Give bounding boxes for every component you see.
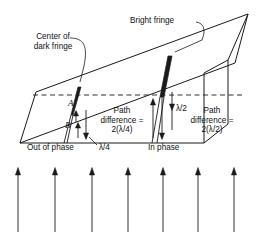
path-diff-left-line1: Path <box>91 106 153 116</box>
lambda-half-head <box>169 104 174 111</box>
label-center-of-dark-fringe-line2: dark fringe <box>22 42 84 52</box>
path-diff-right-line3: 2(λ/2) <box>178 125 246 135</box>
path-diff-left-line2: difference = <box>91 116 153 126</box>
wedge-left-end-edge <box>20 92 36 143</box>
incident-ray-group <box>18 170 234 232</box>
incident-ray-head-3 <box>89 168 94 176</box>
fringe-band-2 <box>160 56 172 97</box>
label-lambda-quarter: λ/4 <box>99 143 110 153</box>
incident-ray-head-5 <box>160 168 165 176</box>
lambda-quarter-leader <box>89 137 97 145</box>
bright-fringe-leader <box>175 22 204 52</box>
arrow-d-head <box>159 133 164 140</box>
incident-ray-head-4 <box>125 168 130 176</box>
label-in-phase: In phase <box>148 143 179 153</box>
label-path-difference-right: Path difference = 2(λ/2) <box>178 106 246 135</box>
path-diff-right-line2: difference = <box>178 116 246 126</box>
incident-ray-heads <box>15 168 236 176</box>
arrow-b-head <box>75 123 80 129</box>
label-point-b: B <box>65 121 71 131</box>
label-lambda-half: λ/2 <box>176 104 187 114</box>
label-center-of-dark-fringe-line1: Center of <box>22 32 84 42</box>
lambda-quarter-head <box>83 133 88 140</box>
label-point-a: A <box>68 99 74 109</box>
wedge-interference-figure: Center of dark fringe Bright fringe A B … <box>0 0 270 238</box>
incident-ray-head-6 <box>195 168 200 176</box>
incident-ray-head-1 <box>15 168 20 176</box>
path-diff-right-line1: Path <box>178 106 246 116</box>
incident-ray-head-7 <box>231 168 236 176</box>
path-diff-left-line3: 2(λ/4) <box>91 125 153 135</box>
label-center-of-dark-fringe: Center of dark fringe <box>22 32 84 51</box>
incident-ray-head-2 <box>52 168 57 176</box>
label-out-of-phase: Out of phase <box>27 143 74 153</box>
wedge-top-back-edge <box>36 14 248 92</box>
label-bright-fringe: Bright fringe <box>130 16 174 26</box>
arrow-c-head <box>150 99 155 106</box>
label-path-difference-left: Path difference = 2(λ/4) <box>91 106 153 135</box>
